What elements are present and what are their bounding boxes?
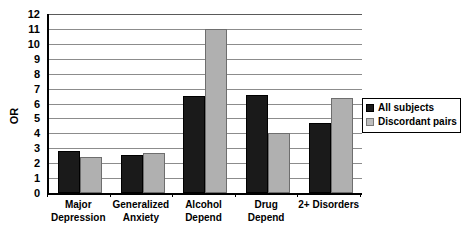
plot-area bbox=[47, 14, 362, 195]
x-axis-category-label: AlcoholDepend bbox=[172, 198, 235, 232]
chart-legend: All subjectsDiscordant pairs bbox=[362, 98, 461, 133]
category-label-line: Depend bbox=[235, 211, 298, 224]
legend-item: Discordant pairs bbox=[366, 115, 457, 129]
y-axis-tick-label: 2 bbox=[34, 158, 40, 169]
bar-group bbox=[112, 14, 175, 193]
legend-item: All subjects bbox=[366, 101, 457, 115]
category-label-line: Generalized bbox=[113, 199, 170, 210]
y-axis-tick-label: 1 bbox=[34, 173, 40, 184]
bar-group bbox=[174, 14, 237, 193]
x-axis-tick-mark bbox=[360, 193, 361, 197]
bar bbox=[205, 29, 227, 193]
bar-group bbox=[49, 14, 112, 193]
y-axis-title-label: OR bbox=[8, 108, 20, 125]
category-label-line: 2+ Disorders bbox=[298, 199, 359, 210]
bar bbox=[268, 133, 290, 193]
bar bbox=[80, 157, 102, 193]
legend-item-label: Discordant pairs bbox=[378, 117, 457, 127]
x-axis-tick-mark bbox=[235, 193, 236, 197]
category-label-line: Major bbox=[65, 199, 92, 210]
bar bbox=[309, 123, 331, 193]
bar-group bbox=[237, 14, 300, 193]
x-axis-tick-mark bbox=[110, 193, 111, 197]
y-axis-tick-labels: 1211109876543210 bbox=[20, 14, 44, 193]
y-axis-tick-label: 8 bbox=[34, 68, 40, 79]
bar bbox=[183, 96, 205, 193]
y-axis-tick-label: 5 bbox=[34, 113, 40, 124]
bar bbox=[121, 155, 143, 193]
x-axis-category-label: GeneralizedAnxiety bbox=[110, 198, 173, 232]
category-label-line: Anxiety bbox=[110, 211, 173, 224]
bar bbox=[58, 151, 80, 193]
y-axis-tick-label: 11 bbox=[28, 23, 40, 34]
x-axis-category-labels: MajorDepressionGeneralizedAnxietyAlcohol… bbox=[47, 198, 360, 232]
y-axis-tick-label: 9 bbox=[34, 53, 40, 64]
category-label-line: Drug bbox=[254, 199, 277, 210]
x-axis-category-label: MajorDepression bbox=[47, 198, 110, 232]
bar bbox=[246, 95, 268, 193]
black-square-icon bbox=[366, 104, 374, 112]
x-axis-category-label: DrugDepend bbox=[235, 198, 298, 232]
y-axis-tick-label: 6 bbox=[34, 98, 40, 109]
category-label-line: Depend bbox=[172, 211, 235, 224]
category-label-line: Alcohol bbox=[185, 199, 222, 210]
legend-item-label: All subjects bbox=[378, 103, 434, 113]
bar bbox=[331, 98, 353, 193]
y-axis-tick-label: 3 bbox=[34, 143, 40, 154]
category-label-line: Depression bbox=[47, 211, 110, 224]
y-axis-tick-label: 0 bbox=[34, 188, 40, 199]
x-axis-tick-mark bbox=[297, 193, 298, 197]
y-axis-tick-label: 7 bbox=[34, 83, 40, 94]
x-axis-tick-mark bbox=[172, 193, 173, 197]
y-axis-tick-label: 10 bbox=[28, 38, 40, 49]
gray-square-icon bbox=[366, 118, 374, 126]
bar-groups bbox=[49, 14, 362, 193]
y-axis-tick-label: 4 bbox=[34, 128, 40, 139]
bar-chart: OR 1211109876543210 MajorDepressionGener… bbox=[0, 0, 474, 234]
x-axis-tick-marks bbox=[47, 193, 362, 198]
bar-group bbox=[299, 14, 362, 193]
x-axis-category-label: 2+ Disorders bbox=[297, 198, 360, 232]
x-axis-tick-mark bbox=[47, 193, 48, 197]
bar bbox=[143, 153, 165, 193]
y-axis-tick-label: 12 bbox=[28, 9, 40, 20]
